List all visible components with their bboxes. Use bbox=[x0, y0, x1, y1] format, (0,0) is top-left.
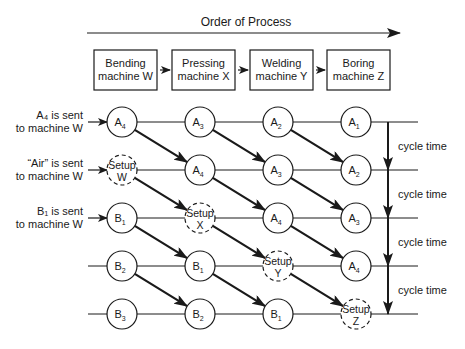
part-node: A3 bbox=[341, 203, 371, 233]
setup-node: SetupY bbox=[263, 251, 293, 281]
row-label-line1: B₁ is sent bbox=[37, 205, 83, 217]
setup-node: SetupW bbox=[107, 155, 137, 185]
row-label-line1: A₄ is sent bbox=[36, 109, 83, 121]
machine-box-2: Weldingmachine Y bbox=[250, 50, 313, 90]
machine-letter: machine Z bbox=[333, 70, 385, 82]
part-node: A4 bbox=[185, 155, 215, 185]
part-node: A3 bbox=[263, 155, 293, 185]
part-node: B3 bbox=[107, 299, 137, 329]
part-node: A1 bbox=[341, 107, 371, 137]
order-of-process-title: Order of Process bbox=[201, 15, 292, 29]
row-label-line2: to machine W bbox=[16, 218, 84, 230]
machine-boxes: Bendingmachine WPressingmachine XWelding… bbox=[94, 50, 390, 90]
part-node: A4 bbox=[107, 107, 137, 137]
machine-box-3: Boringmachine Z bbox=[327, 50, 390, 90]
flow-arrow bbox=[291, 130, 343, 162]
part-node: A4 bbox=[341, 251, 371, 281]
machine-letter: machine Y bbox=[256, 70, 308, 82]
setup-node: SetupZ bbox=[341, 299, 371, 329]
part-node: B2 bbox=[107, 251, 137, 281]
flow-arrow bbox=[135, 130, 187, 162]
part-node: B1 bbox=[263, 299, 293, 329]
flow-arrow bbox=[135, 274, 187, 306]
setup-label: Setup bbox=[108, 159, 136, 171]
part-node: A2 bbox=[341, 155, 371, 185]
row-label-line1: “Air” is sent bbox=[27, 157, 83, 169]
setup-machine: Y bbox=[274, 267, 281, 279]
setup-label: Setup bbox=[186, 207, 214, 219]
machine-letter: machine X bbox=[178, 70, 231, 82]
setup-node: SetupX bbox=[185, 203, 215, 233]
part-node: A3 bbox=[185, 107, 215, 137]
flow-arrow bbox=[291, 226, 343, 258]
row-labels: A₄ is sentto machine W“Air” is sentto ma… bbox=[16, 109, 107, 230]
flow-arrow bbox=[213, 130, 265, 162]
part-node: A2 bbox=[263, 107, 293, 137]
machine-box-0: Bendingmachine W bbox=[94, 50, 157, 90]
flow-arrow bbox=[135, 178, 187, 210]
flow-arrow bbox=[291, 178, 343, 210]
setup-machine: W bbox=[117, 171, 127, 183]
part-node: A4 bbox=[263, 203, 293, 233]
machine-name: Boring bbox=[343, 57, 375, 69]
setup-label: Setup bbox=[264, 255, 292, 267]
setup-machine: X bbox=[196, 219, 203, 231]
machine-box-1: Pressingmachine X bbox=[172, 50, 235, 90]
setup-label: Setup bbox=[342, 303, 370, 315]
flow-arrow bbox=[213, 226, 265, 258]
part-node: B1 bbox=[107, 203, 137, 233]
machine-letter: machine W bbox=[98, 70, 154, 82]
cycle-time-label: cycle time bbox=[398, 188, 447, 200]
machine-name: Bending bbox=[105, 57, 145, 69]
machine-name: Welding bbox=[262, 57, 302, 69]
flow-arrow bbox=[291, 274, 343, 306]
flow-arrow bbox=[213, 178, 265, 210]
part-node: B2 bbox=[185, 299, 215, 329]
flow-arrow bbox=[135, 226, 187, 258]
row-label-line2: to machine W bbox=[16, 170, 84, 182]
part-node: B1 bbox=[185, 251, 215, 281]
cycle-time-label: cycle time bbox=[398, 236, 447, 248]
flow-arrow bbox=[213, 274, 265, 306]
machine-name: Pressing bbox=[182, 57, 225, 69]
row-label-line2: to machine W bbox=[16, 122, 84, 134]
cycle-time-label: cycle time bbox=[398, 140, 447, 152]
cycle-time-label: cycle time bbox=[398, 284, 447, 296]
process-diagram: Order of Process Bendingmachine WPressin… bbox=[0, 0, 465, 349]
setup-machine: Z bbox=[353, 315, 360, 327]
